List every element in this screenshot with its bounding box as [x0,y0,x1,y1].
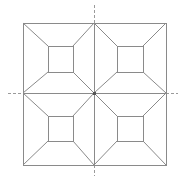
center-point [93,92,96,95]
bevel-line [94,72,117,93]
bevel-line [143,72,166,93]
bevel-line [143,23,166,46]
bevel-line [73,93,94,116]
inner-square [49,117,74,142]
bevel-line [23,141,48,165]
bevel-line [94,23,117,46]
quadrant-bottom-right [94,93,166,165]
bevel-line [23,93,48,116]
quadrant-bottom-left [23,93,94,165]
quadrant-top-right [94,23,166,93]
bevel-line [73,141,94,165]
bevel-line [143,93,166,116]
center-dot [93,92,96,95]
inner-square [118,47,144,73]
bevel-line [23,23,48,46]
bevel-line [23,72,48,93]
inner-square [118,117,144,142]
geometric-diagram [0,0,183,180]
bevel-line [94,141,117,165]
quadrant-top-left [23,23,94,93]
bevel-line [143,141,166,165]
bevel-line [73,72,94,93]
bevel-line [73,23,94,46]
bevel-line [94,93,117,116]
inner-square [49,47,74,73]
